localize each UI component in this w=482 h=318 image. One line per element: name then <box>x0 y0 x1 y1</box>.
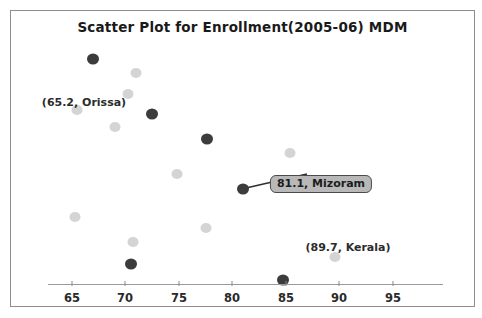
annotation-mizoram-callout[interactable]: 81.1, Mizoram <box>270 175 372 193</box>
screenshot-root: Scatter Plot for Enrollment(2005-06) MDM <box>0 0 482 318</box>
point-dark-2[interactable] <box>146 109 158 120</box>
mizoram-leader-line <box>11 11 476 308</box>
x-tick-mark-95 <box>393 281 394 286</box>
point-light-5[interactable] <box>285 148 296 158</box>
scatter-plot-area: (65.2, Orissa) (89.7, Kerala) 81.1, Mizo… <box>11 11 476 308</box>
point-dark-1[interactable] <box>87 54 99 65</box>
annotation-kerala: (89.7, Kerala) <box>305 241 390 254</box>
x-tick-label-80: 80 <box>224 291 240 305</box>
x-tick-label-75: 75 <box>171 291 187 305</box>
x-tick-label-90: 90 <box>331 291 347 305</box>
point-dark-4-mizoram[interactable] <box>237 184 249 195</box>
x-tick-mark-65 <box>72 281 73 286</box>
chart-figure-frame: Scatter Plot for Enrollment(2005-06) MDM <box>10 10 475 307</box>
point-light-4[interactable] <box>110 122 121 132</box>
x-axis-line <box>48 284 443 285</box>
x-tick-mark-85 <box>286 281 287 286</box>
point-light-9[interactable] <box>128 237 139 247</box>
x-tick-label-65: 65 <box>64 291 80 305</box>
x-tick-label-70: 70 <box>117 291 133 305</box>
point-light-6[interactable] <box>172 169 183 179</box>
annotation-orissa: (65.2, Orissa) <box>42 96 126 109</box>
x-tick-mark-80 <box>232 281 233 286</box>
x-tick-mark-75 <box>179 281 180 286</box>
point-light-10-kerala[interactable] <box>330 252 341 262</box>
point-light-8[interactable] <box>201 223 212 233</box>
x-tick-mark-70 <box>125 281 126 286</box>
point-light-1[interactable] <box>131 68 142 78</box>
point-dark-3[interactable] <box>201 134 213 145</box>
point-dark-5[interactable] <box>125 259 137 270</box>
x-tick-label-85: 85 <box>278 291 294 305</box>
x-tick-label-95: 95 <box>385 291 401 305</box>
point-light-7[interactable] <box>70 212 81 222</box>
x-tick-mark-90 <box>339 281 340 286</box>
